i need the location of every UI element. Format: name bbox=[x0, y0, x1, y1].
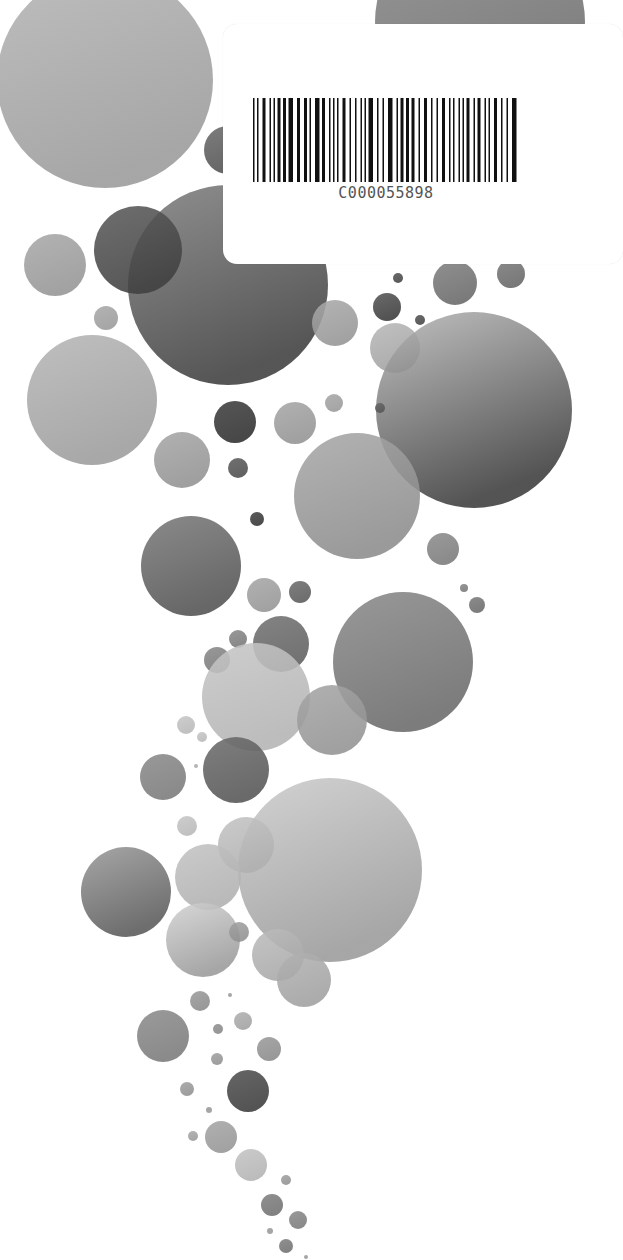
bubble-circle bbox=[415, 315, 425, 325]
bubble-circle bbox=[137, 1010, 189, 1062]
bubble-circle bbox=[257, 1037, 281, 1061]
bubble-circle bbox=[202, 643, 310, 751]
bubble-circle bbox=[94, 306, 118, 330]
bubble-circle bbox=[229, 922, 249, 942]
bubble-circle bbox=[211, 1053, 223, 1065]
bubble-circle bbox=[304, 1255, 308, 1259]
bubble-circle bbox=[154, 432, 210, 488]
bubble-circle bbox=[497, 260, 525, 288]
bubble-circle bbox=[373, 293, 401, 321]
bubble-circle bbox=[213, 1024, 223, 1034]
bubble-circle bbox=[175, 844, 241, 910]
bubble-circle bbox=[180, 1082, 194, 1096]
bubble-circle bbox=[206, 1107, 212, 1113]
bubble-circle bbox=[205, 1121, 237, 1153]
bubble-circle bbox=[166, 903, 240, 977]
bubble-circle bbox=[267, 1228, 273, 1234]
bubble-circle bbox=[141, 516, 241, 616]
bubble-circle bbox=[81, 847, 171, 937]
bubble-circle bbox=[433, 261, 477, 305]
bubble-circle bbox=[393, 273, 403, 283]
bubble-circle bbox=[247, 578, 281, 612]
bubble-circle bbox=[177, 716, 195, 734]
bubble-circle bbox=[197, 732, 207, 742]
bubble-circle bbox=[460, 584, 468, 592]
bubble-circle bbox=[289, 1211, 307, 1229]
bubble-circle bbox=[24, 234, 86, 296]
bubble-circle bbox=[228, 993, 232, 997]
bubble-circle bbox=[375, 403, 385, 413]
bubble-circle bbox=[227, 1070, 269, 1112]
bubble-circle bbox=[289, 581, 311, 603]
bubble-circle bbox=[277, 953, 331, 1007]
barcode-sticker: C000055898 bbox=[223, 24, 623, 264]
bubble-circle bbox=[203, 737, 269, 803]
bubble-circle bbox=[190, 991, 210, 1011]
bubble-circle bbox=[250, 512, 264, 526]
barcode-number: C000055898 bbox=[253, 184, 519, 202]
bubble-circle bbox=[228, 458, 248, 478]
bubble-circle bbox=[261, 1194, 283, 1216]
bubble-circle bbox=[177, 816, 197, 836]
bubble-circle bbox=[194, 764, 198, 768]
bubble-circle bbox=[235, 1149, 267, 1181]
bubble-circle bbox=[469, 597, 485, 613]
bubble-circle bbox=[279, 1239, 293, 1253]
bubble-circle bbox=[0, 0, 213, 188]
bubble-circle bbox=[312, 300, 358, 346]
bubble-circle bbox=[214, 401, 256, 443]
bubble-circle bbox=[94, 206, 182, 294]
bubble-circle bbox=[140, 754, 186, 800]
bubble-circle bbox=[188, 1131, 198, 1141]
barcode-icon bbox=[253, 98, 519, 182]
bubble-circle bbox=[234, 1012, 252, 1030]
bubble-circle bbox=[427, 533, 459, 565]
bubble-circle bbox=[294, 433, 420, 559]
bubble-circle bbox=[274, 402, 316, 444]
bubble-circle bbox=[325, 394, 343, 412]
bubble-circle bbox=[297, 685, 367, 755]
bubble-circle bbox=[27, 335, 157, 465]
bubble-circle bbox=[281, 1175, 291, 1185]
